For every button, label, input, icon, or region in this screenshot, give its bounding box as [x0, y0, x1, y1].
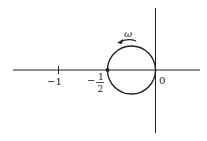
arrow-head-icon: [117, 39, 123, 44]
label-minus-one: −1: [47, 76, 62, 87]
label-omega: ω: [124, 28, 132, 39]
label-origin: 0: [159, 75, 165, 86]
nyquist-diagram: −1 − 1 2 0 ω: [0, 0, 207, 141]
label-minus-half-denominator: 2: [98, 84, 104, 94]
label-minus-half-numerator: 1: [98, 72, 104, 82]
label-minus-half-sign: −: [87, 75, 95, 86]
point-minus-half: [106, 68, 110, 72]
